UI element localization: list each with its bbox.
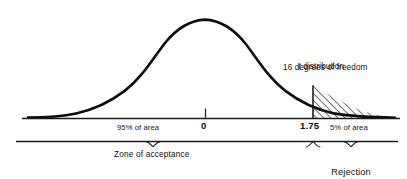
axis-tick-label-critical-value: 1.75 (300, 121, 319, 131)
degrees-of-freedom-label: 16 degrees of freedom (283, 64, 367, 73)
rejection-tail-shading (310, 82, 400, 120)
zone-of-acceptance-label: Zone of acceptance (114, 150, 190, 159)
rejection-brace-tip (344, 142, 358, 147)
rejection-region-label: Rejection region (318, 148, 384, 179)
t-distribution-curve (28, 20, 313, 117)
t-distribution-figure: t distribution 16 degrees of freedom 0 1… (0, 0, 407, 179)
axis-tick-label-zero: 0 (201, 121, 206, 131)
acceptance-area-label: 95% of area (117, 124, 159, 132)
rejection-region-label-line1: Rejection (318, 168, 384, 178)
rejection-area-label: 5% of area (330, 124, 368, 132)
zone-boundary-brace-tip (306, 141, 320, 147)
acceptance-brace-tip (146, 142, 160, 147)
